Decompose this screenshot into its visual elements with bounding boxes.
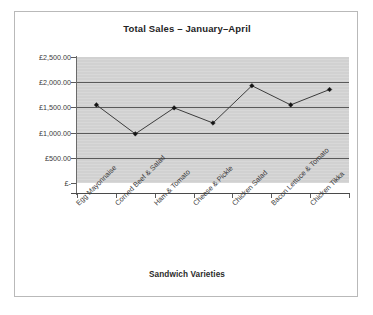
data-point-marker (288, 103, 293, 108)
x-axis-title: Sandwich Varieties (15, 270, 359, 279)
data-point-marker (327, 87, 332, 92)
chart-container: Total Sales – January–April £-£500.00£1,… (14, 11, 358, 297)
series-markers (94, 83, 332, 136)
data-series-total-sales (15, 12, 359, 298)
series-line (96, 86, 329, 134)
